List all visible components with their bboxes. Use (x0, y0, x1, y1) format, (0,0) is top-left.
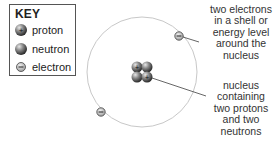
key-title: KEY (15, 7, 40, 21)
key-label: electron (32, 61, 71, 73)
electron-shell-caption: two electrons in a shell or energy level… (203, 4, 279, 61)
electron-leader-line (183, 37, 199, 42)
electron-icon (14, 60, 28, 74)
neutron-icon (14, 42, 28, 56)
key-label: neutron (32, 43, 69, 55)
svg-text:+: + (135, 64, 139, 71)
svg-text:+: + (19, 26, 24, 35)
key-item-proton: + proton (14, 22, 63, 38)
caption-line: and two (203, 114, 279, 125)
neutron (142, 62, 153, 73)
nucleus-caption: nucleus containing two protons and two n… (203, 80, 279, 137)
proton: + (142, 72, 153, 83)
neutron (132, 72, 143, 83)
caption-line: neutrons (203, 126, 279, 137)
caption-line: nucleus (203, 50, 279, 61)
proton-icon: + (14, 23, 28, 37)
key-legend: KEY + proton neutron electron (9, 4, 76, 76)
electron (175, 32, 183, 40)
svg-text:+: + (145, 74, 149, 81)
nucleus-leader-line (152, 78, 206, 96)
electron (97, 108, 105, 116)
key-label: proton (32, 24, 63, 36)
proton: + (132, 62, 143, 73)
caption-line: around the (203, 38, 279, 49)
key-item-neutron: neutron (14, 41, 69, 57)
key-item-electron: electron (14, 59, 71, 75)
nucleus: + + (132, 62, 153, 83)
